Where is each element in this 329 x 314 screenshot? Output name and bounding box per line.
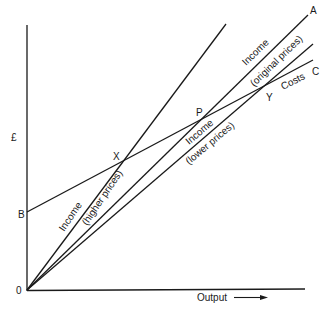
income-lower-line [27, 44, 313, 290]
point-label-y: Y [266, 92, 273, 103]
line-end-label-a: A [310, 5, 317, 16]
income-higher-label: Income [57, 199, 85, 233]
break-even-diagram: £ 0 B Output A C X P Y Costs Income (ori… [0, 0, 329, 314]
x-axis [27, 289, 305, 291]
income-original-line [27, 15, 308, 290]
origin-label: 0 [16, 285, 22, 296]
output-arrow-icon [234, 295, 268, 300]
costs-label: Costs [279, 70, 307, 91]
y-axis-label: £ [11, 132, 17, 143]
costs-line [27, 60, 313, 212]
income-higher-sublabel: (higher prices) [80, 168, 125, 227]
point-label-x: X [113, 151, 120, 162]
intercept-label-b: B [18, 209, 25, 220]
point-label-p: P [196, 107, 203, 118]
x-axis-label: Output [197, 292, 227, 303]
line-end-label-c: C [312, 66, 319, 77]
